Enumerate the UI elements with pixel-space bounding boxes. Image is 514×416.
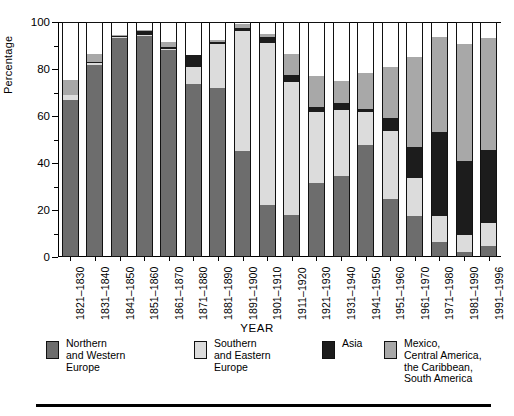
x-tick-label: 1911–1920 — [296, 267, 308, 320]
x-tick-mark — [70, 257, 71, 261]
segment-2 — [259, 37, 276, 43]
segment-4 — [406, 22, 423, 57]
bar-1831-1840 — [86, 22, 103, 257]
segment-1 — [209, 44, 226, 87]
legend-label: Southern and Eastern Europe — [214, 338, 271, 373]
segment-3 — [111, 35, 128, 36]
legend-item-0[interactable]: Northern and Western Europe — [46, 338, 125, 373]
y-tick-label: 20 — [37, 204, 50, 216]
y-tick-label: 60 — [37, 110, 50, 122]
segment-3 — [308, 76, 325, 107]
segment-1 — [333, 110, 350, 176]
bar-1951-1960 — [382, 22, 399, 257]
x-tick-label: 1951–1960 — [394, 267, 406, 320]
segment-4 — [86, 22, 103, 54]
segment-1 — [406, 178, 423, 216]
segment-1 — [382, 131, 399, 199]
legend-item-2[interactable]: Asia — [322, 338, 362, 359]
x-tick-mark — [464, 257, 465, 261]
x-tick-mark — [144, 257, 145, 261]
segment-3 — [382, 67, 399, 119]
segment-3 — [234, 24, 251, 28]
y-tick-label: 100 — [31, 16, 50, 28]
y-tick-label: 40 — [37, 157, 50, 169]
x-tick-mark — [292, 257, 293, 261]
segment-3 — [259, 34, 276, 38]
segment-0 — [480, 246, 497, 257]
segment-1 — [185, 67, 202, 85]
segment-0 — [86, 65, 103, 257]
x-tick-label: 1851–1860 — [148, 267, 160, 320]
bar-1971-1980 — [431, 22, 448, 257]
x-tick-mark — [341, 257, 342, 261]
segment-2 — [136, 31, 153, 35]
segment-0 — [62, 100, 79, 257]
bar-1991-1996 — [480, 22, 497, 257]
swatch-latin-america — [384, 341, 397, 359]
segment-0 — [382, 199, 399, 257]
x-tick-mark — [243, 257, 244, 261]
legend-label: Northern and Western Europe — [66, 338, 125, 373]
segment-0 — [136, 36, 153, 257]
segment-3 — [406, 57, 423, 146]
x-tick-mark — [489, 257, 490, 261]
legend-label: Mexico, Central America, the Caribbean, … — [404, 338, 482, 385]
bar-1981-1990 — [456, 22, 473, 257]
x-tick-label: 1971–1980 — [443, 267, 455, 320]
x-tick-label: 1861–1870 — [173, 267, 185, 320]
segment-1 — [160, 49, 177, 50]
segment-3 — [283, 54, 300, 75]
bar-1851-1860 — [136, 22, 153, 257]
segment-1 — [234, 31, 251, 151]
bar-1901-1910 — [259, 22, 276, 257]
segment-1 — [62, 95, 79, 100]
segment-3 — [333, 81, 350, 103]
segment-4 — [111, 22, 128, 35]
legend-item-1[interactable]: Southern and Eastern Europe — [194, 338, 271, 373]
segment-4 — [431, 22, 448, 37]
segment-1 — [111, 37, 128, 38]
segment-1 — [86, 63, 103, 65]
segment-3 — [431, 37, 448, 132]
segment-4 — [62, 22, 79, 80]
x-tick-label: 1991–1996 — [493, 267, 505, 320]
segment-0 — [333, 176, 350, 257]
segment-0 — [431, 242, 448, 257]
x-tick-label: 1941–1950 — [370, 267, 382, 320]
segment-2 — [480, 150, 497, 223]
bar-1881-1890 — [209, 22, 226, 257]
segment-3 — [357, 73, 374, 109]
segment-2 — [234, 28, 251, 32]
segment-1 — [456, 235, 473, 253]
segment-1 — [308, 112, 325, 183]
legend: Northern and Western EuropeSouthern and … — [46, 338, 514, 398]
segment-2 — [406, 147, 423, 179]
x-tick-mark — [169, 257, 170, 261]
segment-1 — [136, 35, 153, 36]
x-axis-title: YEAR — [0, 322, 514, 334]
bar-1931-1940 — [333, 22, 350, 257]
x-tick-label: 1841–1850 — [124, 267, 136, 320]
swatch-northern-western-europe — [46, 341, 59, 359]
x-tick-mark — [120, 257, 121, 261]
legend-item-3[interactable]: Mexico, Central America, the Caribbean, … — [384, 338, 482, 385]
x-tick-mark — [415, 257, 416, 261]
segment-1 — [431, 216, 448, 242]
segment-3 — [480, 38, 497, 150]
x-tick-mark — [267, 257, 268, 261]
x-tick-mark — [390, 257, 391, 261]
y-axis-title: Percentage — [2, 62, 14, 78]
plot-area: Percentage 020406080100 1821–18301831–18… — [0, 0, 514, 270]
segment-2 — [357, 109, 374, 113]
segment-2 — [431, 132, 448, 215]
segment-4 — [136, 22, 153, 30]
segment-2 — [308, 107, 325, 113]
y-axis-ticks: 020406080100 — [22, 0, 58, 270]
segment-3 — [62, 80, 79, 95]
x-tick-label: 1981–1990 — [468, 267, 480, 320]
segment-0 — [209, 88, 226, 257]
segment-4 — [185, 22, 202, 55]
segment-4 — [160, 22, 177, 42]
x-axis-labels: 1821–18301831–18401841–18501851–18601861… — [58, 262, 501, 324]
segment-1 — [480, 223, 497, 247]
